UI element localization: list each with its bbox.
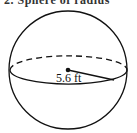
sphere-diagram: [0, 0, 137, 133]
radius-label: 5.6 ft: [56, 71, 81, 86]
